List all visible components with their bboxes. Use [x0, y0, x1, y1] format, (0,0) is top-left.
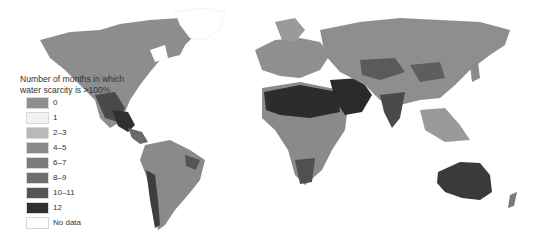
europe	[255, 38, 330, 78]
legend-swatch	[26, 127, 49, 139]
legend-swatch	[26, 112, 49, 124]
legend-swatch	[26, 187, 49, 199]
india	[380, 92, 405, 128]
new-zealand	[508, 192, 517, 208]
legend-swatch	[26, 217, 49, 229]
southern-africa	[295, 158, 315, 184]
legend-swatch	[26, 172, 49, 184]
legend-item-10-11: 10–11	[26, 185, 166, 200]
legend-item-1: 1	[26, 110, 166, 125]
legend-swatch	[26, 97, 49, 109]
japan	[470, 62, 480, 82]
legend-title: Number of months in which water scarcity…	[20, 74, 166, 95]
legend-item-6-7: 6–7	[26, 155, 166, 170]
legend-item-12: 12	[26, 200, 166, 215]
australia	[437, 162, 492, 200]
legend: Number of months in which water scarcity…	[6, 74, 166, 230]
legend-swatch	[26, 157, 49, 169]
se-asia	[420, 108, 470, 142]
legend-item-2-3: 2–3	[26, 125, 166, 140]
legend-item-4-5: 4–5	[26, 140, 166, 155]
legend-swatch	[26, 202, 49, 214]
legend-item-0: 0	[26, 95, 166, 110]
legend-item-no-data: No data	[26, 215, 166, 230]
legend-item-8-9: 8–9	[26, 170, 166, 185]
legend-swatch	[26, 142, 49, 154]
